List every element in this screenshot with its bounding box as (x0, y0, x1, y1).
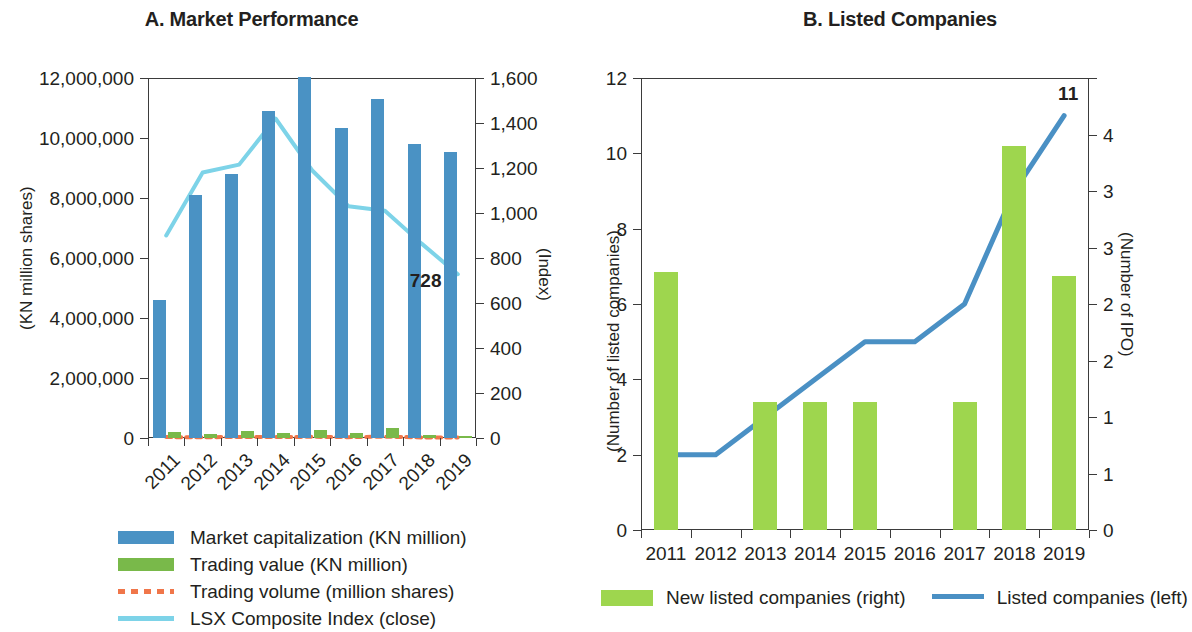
x-axis-label: 2013 (744, 544, 786, 563)
legend-swatch-trading-value (118, 558, 174, 571)
axis-tick-label: 1 (1103, 464, 1114, 483)
axis-tick (476, 438, 484, 439)
axis-tick-label: 3 (1103, 238, 1114, 257)
axis-tick (476, 123, 484, 124)
axis-tick (890, 530, 891, 538)
legend-label-trading-value: Trading value (KN million) (190, 555, 408, 574)
bar (262, 111, 275, 438)
x-axis-label: 2016 (894, 544, 936, 563)
axis-tick (140, 318, 148, 319)
axis-tick (476, 348, 484, 349)
legend-swatch-new-listed-companies (601, 590, 653, 606)
panel-a-y-axis-title: (KN million shares) (18, 186, 35, 330)
axis-tick (330, 438, 331, 446)
axis-tick (1089, 78, 1097, 79)
bar (953, 402, 977, 530)
axis-tick (1089, 191, 1097, 192)
panel-a-legend: Market capitalization (KN million) Tradi… (118, 524, 548, 632)
bar (277, 433, 290, 438)
axis-tick-label: 12 (583, 69, 627, 88)
x-axis-label: 2012 (695, 544, 737, 563)
bar (204, 434, 217, 438)
axis-tick (790, 530, 791, 538)
axis-tick (476, 168, 484, 169)
axis-tick-label: 10 (583, 144, 627, 163)
legend-label-trading-volume: Trading volume (million shares) (190, 582, 454, 601)
legend-label-market-capitalization: Market capitalization (KN million) (190, 528, 467, 547)
legend-swatch-trading-volume (118, 585, 174, 598)
axis-tick (367, 438, 368, 446)
axis-tick (989, 530, 990, 538)
axis-tick-label: 0 (0, 429, 134, 448)
legend-item-trading-value: Trading value (KN million) (118, 551, 548, 577)
data-label: 728 (410, 271, 442, 290)
x-axis-label: 2011 (645, 544, 686, 563)
axis-tick (1089, 417, 1097, 418)
axis-tick (184, 438, 185, 446)
bar (423, 435, 436, 438)
bar (408, 144, 421, 438)
x-axis-label: 2017 (943, 544, 985, 563)
axis-tick-label: 1 (1103, 408, 1114, 427)
axis-tick (148, 438, 149, 446)
axis-tick (641, 530, 642, 538)
panel-listed-companies: B. Listed Companies 024681012 01122334 2… (583, 0, 1167, 619)
axis-tick (1039, 530, 1040, 538)
panel-b-y-axis-title: (Number of listed companies) (605, 230, 622, 452)
axis-tick (1089, 474, 1097, 475)
bar (335, 128, 348, 439)
legend-item-market-capitalization: Market capitalization (KN million) (118, 524, 548, 550)
bar (803, 402, 827, 530)
axis-tick (633, 530, 641, 531)
line-icon (932, 594, 984, 599)
legend-swatch-market-capitalization (118, 531, 174, 544)
axis-tick (1089, 248, 1097, 249)
bar (225, 174, 238, 438)
axis-tick-label: 1,600 (490, 69, 538, 88)
axis-tick (476, 303, 484, 304)
bar (371, 99, 384, 438)
axis-tick-label: 0 (1103, 521, 1114, 540)
axis-tick (476, 438, 477, 446)
x-axis-label: 2015 (844, 544, 886, 563)
swatch-fill (118, 558, 174, 571)
swatch-fill (118, 531, 174, 544)
bar (350, 433, 363, 438)
axis-tick-label: 600 (490, 294, 522, 313)
axis-tick-label: 3 (1103, 182, 1114, 201)
axis-tick-label: 0 (583, 521, 627, 540)
axis-tick (1089, 304, 1097, 305)
panel-a-title: A. Market Performance (0, 8, 543, 31)
axis-tick (633, 304, 641, 305)
axis-tick (633, 229, 641, 230)
axis-tick (691, 530, 692, 538)
x-axis-label: 2018 (993, 544, 1035, 563)
legend-item-lsx-composite-index: LSX Composite Index (close) (118, 605, 548, 631)
panel-b-legend: New listed companies (right) Listed comp… (601, 588, 1192, 607)
axis-tick (140, 258, 148, 259)
panel-b-y2-axis-title: (Number of IPO) (1118, 232, 1135, 357)
axis-tick (1089, 361, 1097, 362)
panel-market-performance: A. Market Performance 02,000,0004,000,00… (0, 0, 583, 619)
axis-tick-label: 800 (490, 249, 522, 268)
axis-tick (440, 438, 441, 446)
axis-tick (257, 438, 258, 446)
axis-tick (633, 455, 641, 456)
axis-tick-label: 1,000 (490, 204, 538, 223)
axis-tick-label: 400 (490, 339, 522, 358)
bar (241, 431, 254, 438)
x-axis-label: 2014 (794, 544, 836, 563)
legend-label-new-listed-companies: New listed companies (right) (666, 588, 906, 607)
axis-tick-label: 12,000,000 (0, 69, 134, 88)
bar (1052, 276, 1076, 530)
legend-item-trading-volume: Trading volume (million shares) (118, 578, 548, 604)
x-axis-label: 2019 (1043, 544, 1085, 563)
axis-tick (633, 78, 641, 79)
bar (753, 402, 777, 530)
bar (168, 432, 181, 438)
data-label: 11 (1058, 84, 1078, 103)
bar (853, 402, 877, 530)
axis-tick-label: 200 (490, 384, 522, 403)
axis-tick (221, 438, 222, 446)
